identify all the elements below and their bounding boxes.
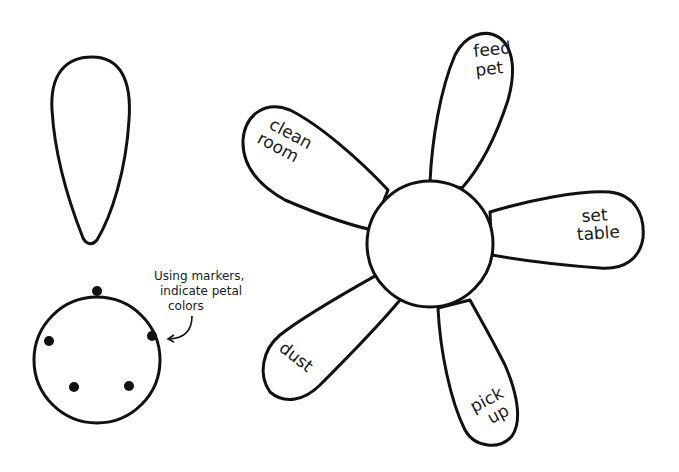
color-dot [69,382,79,392]
petal-dust [263,272,400,399]
annotation-line-3: colors [168,299,204,313]
flower: feed pet clean room set table dust pick … [243,33,643,445]
color-dot [147,331,157,341]
petal-pick-up [438,300,518,445]
label-feed-pet-2: pet [474,57,504,80]
color-dot [44,336,54,346]
template-center [34,286,160,423]
petal-set-table [490,192,643,268]
color-dot [124,381,134,391]
annotation: Using markers, indicate petal colors [154,269,244,342]
color-dot [92,286,102,296]
annotation-line-1: Using markers, [154,269,244,283]
petal-clean-room [243,107,388,230]
flower-center [367,181,493,307]
annotation-line-2: indicate petal [160,284,242,298]
template-petal [52,57,130,244]
label-set-table-2: table [576,221,620,244]
chore-flower-diagram: Using markers, indicate petal colors fee… [0,0,679,472]
